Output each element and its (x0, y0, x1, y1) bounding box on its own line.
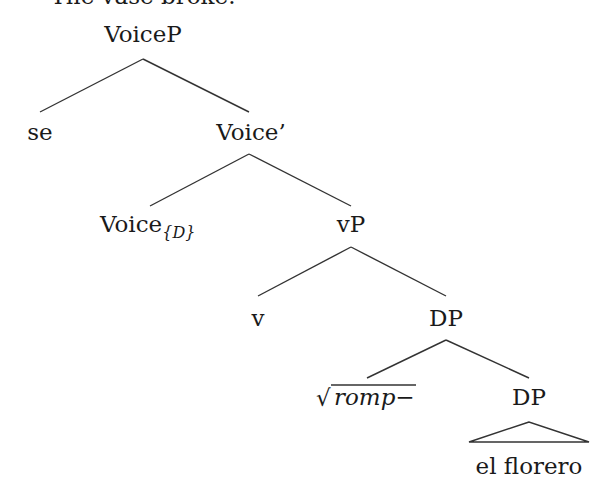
node-dp-upper: DP (429, 305, 463, 331)
edge-dp-dp (446, 340, 529, 378)
edge-voicebar-voicehead (150, 154, 249, 206)
node-dp-lower: DP (512, 384, 546, 410)
node-v: v (251, 305, 265, 331)
caption: The vase broke. (51, 0, 236, 9)
edge-dp-root (367, 340, 446, 378)
syntax-tree: The vase broke. VoiceP se Voice’ Voice{D… (0, 0, 615, 493)
node-root-morph: romp− (334, 384, 415, 410)
edge-voicep-se (40, 59, 143, 112)
node-voice-head: Voice{D} (99, 211, 195, 242)
edge-voicep-voicebar (143, 59, 249, 112)
voice-head-label: Voice (99, 211, 162, 237)
node-vp: vP (336, 211, 365, 237)
voice-head-subscript: {D} (162, 223, 195, 242)
node-voice-bar: Voice’ (215, 119, 286, 145)
edge-voicebar-vp (249, 154, 351, 206)
edge-vp-v (258, 247, 351, 296)
node-el-florero: el florero (476, 453, 583, 479)
node-se: se (27, 119, 52, 145)
node-root-symbol: √ (316, 385, 331, 411)
edge-vp-dp (351, 247, 446, 296)
node-voicep: VoiceP (103, 21, 182, 47)
triangle-abbreviation (469, 422, 589, 442)
